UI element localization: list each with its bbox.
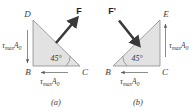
force-arrow-b	[119, 21, 137, 44]
caption-b: (b)	[133, 97, 143, 107]
area-subscript: 0	[186, 45, 189, 51]
vertex-label-d: D	[23, 9, 31, 19]
angle-label-b: 45°	[131, 54, 143, 63]
figure-container: D B C 45° F τmaxA0 τmaxA0 (a)	[0, 0, 193, 111]
vertex-label-c-a: C	[82, 67, 89, 77]
force-arrow-a	[56, 21, 75, 44]
vertex-label-b-b: B	[105, 67, 111, 77]
vertex-label-c-b: C	[162, 67, 169, 77]
area-subscript: 0	[57, 81, 60, 87]
area-subscript: 0	[19, 45, 22, 51]
force-label-a: F	[76, 6, 82, 16]
shear-label-left-a: τmaxA0	[2, 41, 22, 51]
shear-label-bottom-b: τmaxA0	[120, 77, 140, 87]
caption-a: (a)	[51, 97, 61, 107]
panel-b: E B C 45° F' τmaxA0 τmaxA0 (b)	[105, 6, 189, 107]
diagram-svg: D B C 45° F τmaxA0 τmaxA0 (a)	[0, 0, 193, 111]
shear-label-right-b: τmaxA0	[169, 41, 189, 51]
vertex-label-e: E	[162, 9, 169, 19]
area-subscript: 0	[137, 81, 140, 87]
vertex-label-b-a: B	[25, 67, 31, 77]
panel-a: D B C 45° F τmaxA0 τmaxA0 (a)	[2, 6, 89, 107]
shear-label-bottom-a: τmaxA0	[40, 77, 60, 87]
force-label-b: F'	[108, 6, 116, 16]
angle-label-a: 45°	[50, 54, 62, 63]
